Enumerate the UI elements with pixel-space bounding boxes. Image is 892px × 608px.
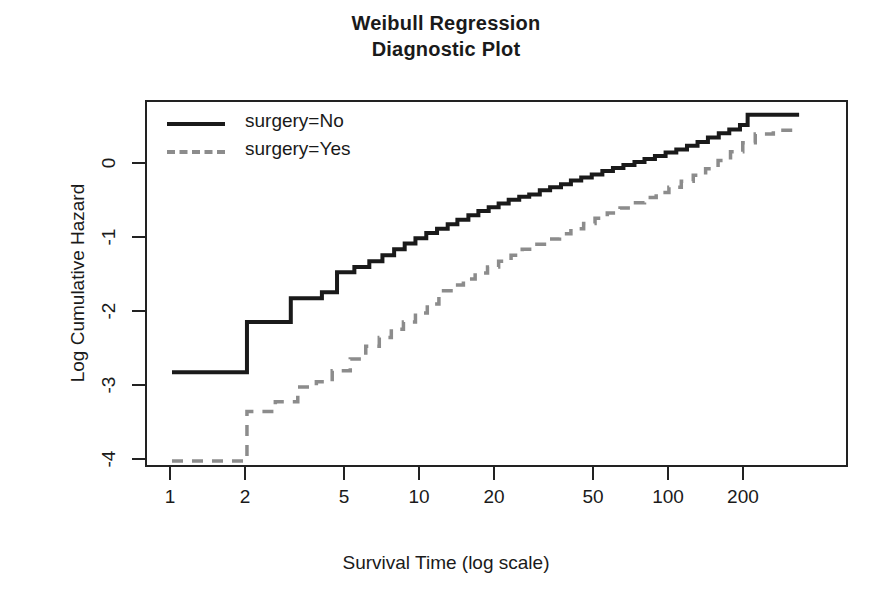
page-title: Weibull Regression Diagnostic Plot [0,10,892,62]
legend-label-surgery-no: surgery=No [245,110,344,132]
legend: surgery=No surgery=Yes [167,110,427,166]
x-tick-mark [592,467,594,480]
series-line-surgery-yes [172,130,799,461]
title-line-2: Diagnostic Plot [0,36,892,62]
y-tick-label: 0 [98,146,120,180]
y-tick-mark [132,384,145,386]
y-axis-title: Log Cumulative Hazard [67,143,89,423]
x-tick-mark [343,467,345,480]
legend-key-dashed-icon [167,150,225,154]
x-tick-label: 1 [165,486,176,508]
legend-key-solid-icon [167,122,225,126]
y-tick-mark [132,310,145,312]
y-tick-label: -1 [98,220,120,254]
y-tick-label: -4 [98,442,120,476]
x-tick-mark [244,467,246,480]
x-tick-label: 10 [408,486,429,508]
y-tick-label: -3 [98,368,120,402]
x-tick-mark [418,467,420,480]
x-tick-mark [742,467,744,480]
title-line-1: Weibull Regression [0,10,892,36]
x-tick-label: 100 [652,486,684,508]
legend-item-surgery-yes: surgery=Yes [167,138,427,166]
y-tick-mark [132,236,145,238]
x-axis-title: Survival Time (log scale) [0,552,892,574]
x-tick-label: 2 [240,486,251,508]
legend-item-surgery-no: surgery=No [167,110,427,138]
plot-area: surgery=No surgery=Yes [145,100,848,467]
x-tick-mark [169,467,171,480]
x-tick-label: 20 [483,486,504,508]
x-tick-label: 5 [339,486,350,508]
x-tick-mark [493,467,495,480]
y-tick-mark [132,162,145,164]
x-tick-label: 50 [582,486,603,508]
legend-label-surgery-yes: surgery=Yes [245,138,350,160]
y-tick-mark [132,458,145,460]
y-tick-label: -2 [98,294,120,328]
chart-page: Weibull Regression Diagnostic Plot surge… [0,0,892,608]
x-tick-mark [667,467,669,480]
x-tick-label: 200 [727,486,759,508]
